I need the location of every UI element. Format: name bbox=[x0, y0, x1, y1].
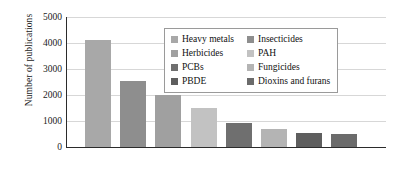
y-tick-label: 4000 bbox=[43, 38, 62, 48]
y-tick-label: 0 bbox=[57, 142, 62, 152]
legend-label: Insecticides bbox=[258, 33, 303, 46]
bar-chart-figure: Number of publications 01000200030004000… bbox=[0, 0, 394, 179]
bar bbox=[155, 95, 181, 146]
legend-swatch-icon bbox=[171, 64, 178, 71]
legend-swatch-icon bbox=[247, 36, 254, 43]
bar bbox=[226, 123, 252, 146]
legend-label: Fungicides bbox=[258, 61, 300, 74]
bar bbox=[120, 81, 146, 146]
bar bbox=[331, 134, 357, 146]
y-tick-label: 2000 bbox=[43, 90, 62, 100]
y-axis-title: Number of publications bbox=[24, 0, 34, 125]
legend-label: Dioxins and furans bbox=[258, 75, 330, 88]
y-tick-label: 1000 bbox=[43, 116, 62, 126]
x-axis-line bbox=[66, 147, 386, 148]
legend-item: Heavy metals bbox=[171, 33, 234, 46]
legend-item: Fungicides bbox=[247, 61, 330, 74]
legend-label: PCBs bbox=[182, 61, 204, 74]
bar bbox=[85, 40, 111, 146]
legend-item: Insecticides bbox=[247, 33, 330, 46]
legend-swatch-icon bbox=[171, 36, 178, 43]
legend-item: PBDE bbox=[171, 75, 234, 88]
legend-swatch-icon bbox=[247, 78, 254, 85]
legend-label: Heavy metals bbox=[182, 33, 234, 46]
y-tick-label: 3000 bbox=[43, 64, 62, 74]
legend-label: PAH bbox=[258, 47, 276, 60]
bar bbox=[191, 108, 217, 147]
y-tick-label: 5000 bbox=[43, 12, 62, 22]
legend-item: Dioxins and furans bbox=[247, 75, 330, 88]
legend-label: Herbicides bbox=[182, 47, 223, 60]
legend-swatch-icon bbox=[247, 50, 254, 57]
legend-swatch-icon bbox=[171, 78, 178, 85]
chart-legend: Heavy metalsInsecticidesHerbicidesPAHPCB… bbox=[164, 28, 338, 93]
legend-label: PBDE bbox=[182, 75, 206, 88]
bar bbox=[261, 129, 287, 147]
legend-item: PCBs bbox=[171, 61, 234, 74]
legend-item: Herbicides bbox=[171, 47, 234, 60]
bar bbox=[296, 133, 322, 146]
legend-swatch-icon bbox=[171, 50, 178, 57]
legend-item: PAH bbox=[247, 47, 330, 60]
legend-swatch-icon bbox=[247, 64, 254, 71]
